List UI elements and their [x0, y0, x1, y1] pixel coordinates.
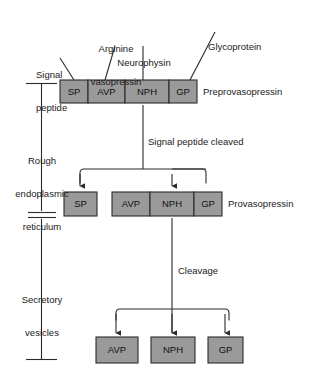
- segment-gp-label: GP: [201, 198, 215, 209]
- callout-glycoprotein: Glycoprotein: [208, 19, 261, 74]
- bracket-label-rough-er-line3: reticulum: [0, 221, 84, 232]
- callout-neurophysin: Neurophysin: [108, 35, 180, 90]
- callout-signal-peptide-line2: peptide: [36, 102, 67, 113]
- product-avp-label: AVP: [108, 344, 126, 355]
- bracket-label-rough-er: Rough endoplasmic reticulum: [0, 133, 84, 254]
- callout-neurophysin-line1: Neurophysin: [108, 57, 180, 68]
- callout-signal-peptide: Signal peptide: [36, 47, 67, 135]
- segment-avp-label: AVP: [122, 198, 140, 209]
- bracket-label-secretory-vesicles-line1: Secretory: [2, 294, 82, 305]
- row-products-bars: AVP NPH GP: [96, 337, 243, 363]
- bracket-label-secretory-vesicles-line2: vesicles: [2, 327, 82, 338]
- row-provasopressin-bar: SP AVP NPH GP: [64, 192, 222, 216]
- callout-glycoprotein-line1: Glycoprotein: [208, 41, 261, 52]
- product-nph-label: NPH: [163, 344, 183, 355]
- bracket-label-rough-er-line1: Rough: [0, 155, 84, 166]
- vasopressin-processing-diagram: SP AVP NPH GP SP AVP NPH GP AVP NPH GP: [0, 0, 314, 379]
- segment-nph-label: NPH: [162, 198, 182, 209]
- product-gp-label: GP: [219, 344, 233, 355]
- row-name-preprovasopressin: Preprovasopressin: [203, 86, 282, 97]
- process-label-signal-peptide-cleaved: Signal peptide cleaved: [148, 136, 244, 147]
- bracket-label-secretory-vesicles: Secretory vesicles: [2, 272, 82, 360]
- bracket-label-rough-er-line2: endoplasmic: [0, 188, 84, 199]
- process-label-cleavage: Cleavage: [178, 265, 218, 276]
- row-name-provasopressin: Provasopressin: [228, 198, 293, 209]
- callout-signal-peptide-line1: Signal: [36, 69, 67, 80]
